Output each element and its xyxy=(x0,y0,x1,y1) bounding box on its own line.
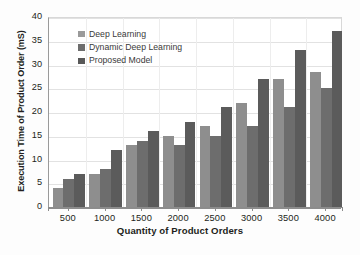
x-axis-tick-mark xyxy=(252,207,253,211)
x-axis-tick-mark xyxy=(215,207,216,211)
legend-item: Proposed Model xyxy=(78,56,182,66)
x-axis-line xyxy=(48,207,342,208)
bar xyxy=(247,126,258,207)
bar xyxy=(185,122,196,208)
legend-item: Dynamic Deep Learning xyxy=(78,42,182,52)
bar xyxy=(258,79,269,207)
bar xyxy=(332,31,343,207)
bar xyxy=(236,103,247,208)
x-axis-tick-mark xyxy=(48,207,49,211)
x-axis-tick-mark xyxy=(68,207,69,211)
x-axis-tick-label: 3500 xyxy=(268,213,308,223)
x-axis-tick-mark xyxy=(342,207,343,211)
legend-item: Deep Learning xyxy=(78,29,182,39)
y-axis-tick-label: 5 xyxy=(18,178,42,187)
bar xyxy=(295,50,306,207)
bar xyxy=(210,136,221,207)
bar xyxy=(126,145,137,207)
y-axis-tick-label: 35 xyxy=(18,36,42,45)
bar xyxy=(111,150,122,207)
bar xyxy=(74,174,85,207)
y-axis-tick-label: 10 xyxy=(18,155,42,164)
bar xyxy=(63,179,74,208)
bar-group xyxy=(236,18,269,207)
legend-item-label: Dynamic Deep Learning xyxy=(89,43,182,52)
x-axis-tick-label: 3000 xyxy=(232,213,272,223)
bar xyxy=(89,174,100,207)
x-axis-tick-label: 4000 xyxy=(305,213,345,223)
y-axis-tick-label: 30 xyxy=(18,60,42,69)
legend-color-swatch-icon xyxy=(78,44,85,51)
x-axis-tick-mark xyxy=(105,207,106,211)
bar-group xyxy=(200,18,233,207)
y-axis-tick-labels: 0510152025303540 xyxy=(0,0,46,255)
x-axis-tick-label: 500 xyxy=(48,213,88,223)
x-axis-tick-label: 2000 xyxy=(158,213,198,223)
bar xyxy=(148,131,159,207)
bar-chart-figure: Execution Time of Product Order (mS) 051… xyxy=(0,0,360,255)
bar xyxy=(221,107,232,207)
chart-legend: Deep LearningDynamic Deep LearningPropos… xyxy=(78,29,182,69)
legend-color-swatch-icon xyxy=(78,31,85,38)
bar xyxy=(174,145,185,207)
bar xyxy=(321,88,332,207)
x-axis-tick-mark xyxy=(325,207,326,211)
y-axis-tick-label: 20 xyxy=(18,107,42,116)
x-axis: 5001000150020002500300035004000 xyxy=(48,207,342,227)
x-axis-tick-mark xyxy=(288,207,289,211)
y-axis-tick-label: 0 xyxy=(18,202,42,211)
x-axis-tick-label: 2500 xyxy=(195,213,235,223)
bar xyxy=(310,72,321,207)
bar-group xyxy=(310,18,343,207)
y-axis-tick-label: 15 xyxy=(18,131,42,140)
x-axis-tick-mark xyxy=(178,207,179,211)
bar xyxy=(284,107,295,207)
bar xyxy=(53,188,64,207)
bar xyxy=(273,79,284,207)
bar xyxy=(200,126,211,207)
bar-group xyxy=(273,18,306,207)
x-axis-tick-label: 1000 xyxy=(85,213,125,223)
x-axis-tick-mark xyxy=(141,207,142,211)
legend-item-label: Deep Learning xyxy=(89,30,146,39)
legend-color-swatch-icon xyxy=(78,58,85,65)
bar xyxy=(137,141,148,208)
legend-item-label: Proposed Model xyxy=(89,56,152,65)
bar xyxy=(100,169,111,207)
y-axis-tick-label: 25 xyxy=(18,83,42,92)
y-axis-tick-label: 40 xyxy=(18,12,42,21)
bar xyxy=(163,136,174,207)
x-axis-tick-label: 1500 xyxy=(121,213,161,223)
x-axis-title: Quantity of Product Orders xyxy=(0,225,360,236)
